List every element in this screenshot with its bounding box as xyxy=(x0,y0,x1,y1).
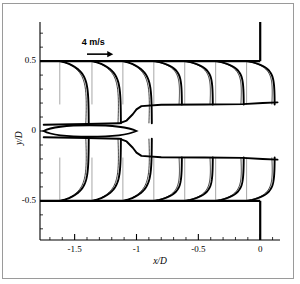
axes-layer xyxy=(40,22,280,240)
x-tick-label: -0.5 xyxy=(191,244,205,254)
y-tick-label: 0.5 xyxy=(25,55,36,65)
shear-layer-boundary xyxy=(44,102,278,159)
x-tick-label: 0 xyxy=(258,244,263,254)
x-tick-label: -1 xyxy=(133,244,141,254)
x-tick-label: -1.5 xyxy=(68,244,82,254)
station-reference-lines xyxy=(60,61,247,201)
figure-container: -1.5 -1 -0.5 0 0.5 0 -0.5 x/D y/D 4 m/s xyxy=(0,0,300,284)
y-tick-label: 0 xyxy=(32,125,37,135)
velocity-scale-arrow xyxy=(87,51,113,57)
velocity-scale-label: 4 m/s xyxy=(82,37,105,47)
y-tick-label: -0.5 xyxy=(22,195,36,205)
duct-walls xyxy=(40,22,260,240)
velocity-profile-plot xyxy=(0,0,300,284)
x-axis-title: x/D xyxy=(153,256,167,266)
centerline-bubble xyxy=(44,125,137,137)
y-axis-title: y/D xyxy=(14,131,24,145)
